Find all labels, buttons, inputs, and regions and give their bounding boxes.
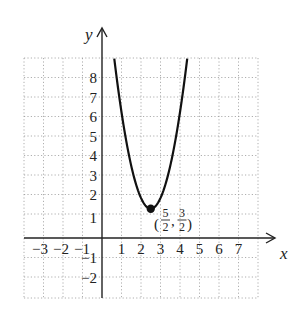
y-tick-3: 3 xyxy=(90,168,98,184)
y-tick-8: 8 xyxy=(90,70,98,86)
vertex-paren-close: ) xyxy=(187,216,192,233)
vertex-y-numerator: 3 xyxy=(179,206,185,220)
y-tick-1: 1 xyxy=(90,210,98,226)
y-tick-m2: −2 xyxy=(81,270,97,286)
y-tick-5: 5 xyxy=(90,129,98,145)
vertex-comma: , xyxy=(171,213,175,229)
x-tick-labels: −3 −2 −1 1 2 3 4 5 6 7 xyxy=(32,241,243,257)
x-tick-7: 7 xyxy=(235,241,243,257)
y-tick-4: 4 xyxy=(90,148,98,164)
x-tick-m2: −2 xyxy=(53,241,69,257)
y-tick-6: 6 xyxy=(90,109,98,125)
x-tick-4: 4 xyxy=(176,241,184,257)
parabola-curve xyxy=(114,59,187,209)
vertex-label: ( 5 2 , 3 2 ) xyxy=(154,206,192,234)
vertex-y-denominator: 2 xyxy=(179,220,185,234)
y-axis-label: y xyxy=(83,25,93,44)
x-tick-1: 1 xyxy=(118,241,126,257)
y-tick-2: 2 xyxy=(90,187,98,203)
vertex-x-numerator: 5 xyxy=(163,206,169,220)
vertex-x-denominator: 2 xyxy=(163,220,169,234)
grid xyxy=(24,58,258,298)
vertex-dot xyxy=(147,205,155,213)
vertex-paren-open: ( xyxy=(154,216,159,233)
x-tick-3: 3 xyxy=(157,241,165,257)
y-tick-7: 7 xyxy=(90,90,98,106)
x-axis-label: x xyxy=(279,244,288,263)
x-tick-6: 6 xyxy=(215,241,223,257)
x-tick-5: 5 xyxy=(196,241,204,257)
parabola-chart: x y 8 7 6 5 4 3 2 1 −1 −2 −3 −2 −1 1 2 3… xyxy=(0,0,306,319)
x-tick-m3: −3 xyxy=(32,241,48,257)
x-tick-2: 2 xyxy=(137,241,145,257)
x-tick-m1: −1 xyxy=(74,241,90,257)
